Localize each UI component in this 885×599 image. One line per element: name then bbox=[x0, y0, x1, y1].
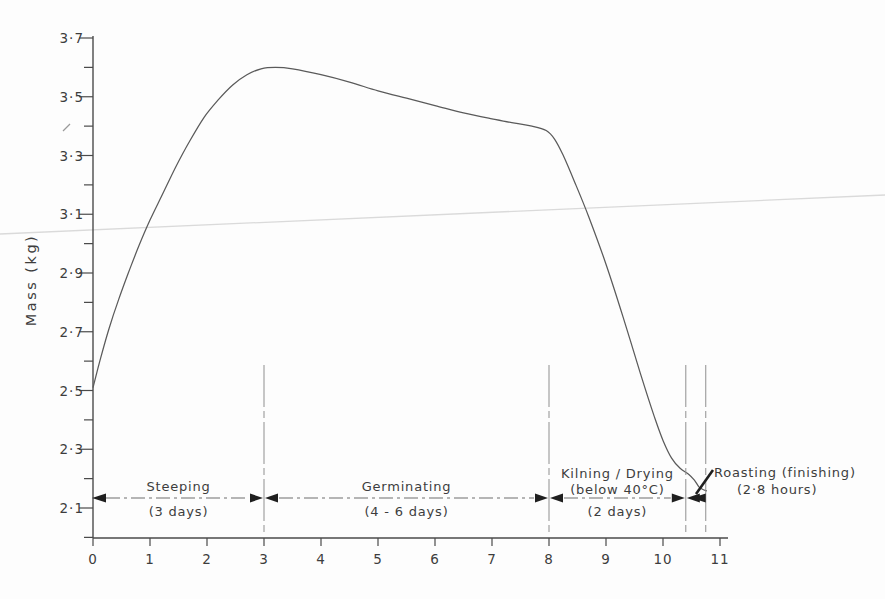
x-tick-label: 1 bbox=[145, 551, 155, 567]
x-tick-label: 0 bbox=[88, 551, 98, 567]
stage-duration-label: (2 days) bbox=[588, 504, 648, 519]
stage-name-label: Roasting (finishing) bbox=[714, 465, 856, 480]
x-tick-label: 7 bbox=[487, 551, 497, 567]
y-tick-label: 3·7 bbox=[60, 30, 84, 46]
y-axis-title: Mass (kg) bbox=[23, 234, 39, 327]
y-tick-label: 3·5 bbox=[60, 89, 84, 105]
stage-duration-label: (3 days) bbox=[149, 504, 209, 519]
scan-artifact-line bbox=[0, 195, 885, 234]
stage-duration-label: (4 - 6 days) bbox=[364, 504, 448, 519]
y-tick-label: 2·1 bbox=[60, 500, 84, 516]
stage-name-label: Steeping bbox=[146, 479, 210, 494]
x-tick-label: 5 bbox=[373, 551, 383, 567]
mass-curve bbox=[93, 67, 707, 491]
y-tick-label: 2·3 bbox=[60, 441, 84, 457]
y-tick-label: 2·5 bbox=[60, 383, 84, 399]
y-tick-label: 3·3 bbox=[60, 148, 84, 164]
x-tick-label: 11 bbox=[710, 551, 729, 567]
stage-name-label: Germinating bbox=[362, 479, 452, 494]
x-tick-label: 10 bbox=[653, 551, 672, 567]
y-tick-label: 3·1 bbox=[60, 206, 84, 222]
stage-condition-label: (below 40°C) bbox=[570, 482, 664, 497]
dimension-arrow bbox=[672, 494, 685, 503]
x-tick-label: 9 bbox=[601, 551, 611, 567]
x-tick-label: 8 bbox=[544, 551, 554, 567]
figure-container: 2·12·32·52·72·93·13·33·53·70123456789101… bbox=[0, 0, 885, 599]
dimension-arrow bbox=[535, 494, 548, 503]
x-tick-label: 3 bbox=[259, 551, 269, 567]
y-tick-label: 2·9 bbox=[60, 265, 84, 281]
x-tick-label: 4 bbox=[316, 551, 326, 567]
scan-artifact-mark bbox=[63, 124, 70, 131]
y-tick-label: 2·7 bbox=[60, 324, 84, 340]
chart-canvas: 2·12·32·52·72·93·13·33·53·70123456789101… bbox=[0, 0, 885, 599]
x-tick-label: 6 bbox=[430, 551, 440, 567]
x-tick-label: 2 bbox=[202, 551, 212, 567]
dimension-arrow bbox=[265, 494, 278, 503]
dimension-arrow bbox=[250, 494, 263, 503]
dimension-arrow bbox=[550, 494, 563, 503]
stage-name-label: Kilning / Drying bbox=[561, 466, 674, 481]
dimension-arrow bbox=[92, 494, 106, 503]
stage-duration-label: (2·8 hours) bbox=[737, 482, 817, 497]
